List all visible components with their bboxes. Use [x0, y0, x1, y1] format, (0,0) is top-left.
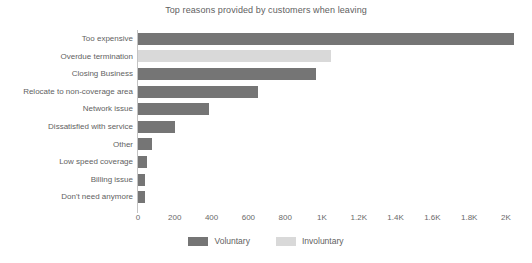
bar-row — [138, 188, 506, 206]
x-axis-labels: 02004006008001K1.2K1.4K1.6K1.8K2K — [138, 213, 506, 229]
bar-dissatisfied-with-service[interactable] — [138, 121, 175, 133]
bar-row — [138, 30, 506, 48]
bar-row — [138, 48, 506, 66]
bar-relocate-to-non-coverage-area[interactable] — [138, 86, 258, 98]
bar-billing-issue[interactable] — [138, 174, 145, 186]
bar-row — [138, 118, 506, 136]
x-axis-tick-label: 2K — [501, 213, 511, 222]
bar-chart: Top reasons provided by customers when l… — [0, 0, 532, 263]
bar-network-issue[interactable] — [138, 103, 209, 115]
y-axis-tick-label: Don't need anymore — [0, 188, 133, 206]
plot-area — [138, 30, 506, 212]
bar-overdue-termination[interactable] — [138, 50, 331, 62]
x-axis-tick-label: 200 — [168, 213, 181, 222]
legend-swatch-icon — [276, 237, 296, 246]
x-axis-tick-label: 1K — [317, 213, 327, 222]
bar-row — [138, 100, 506, 118]
legend-label: Voluntary — [214, 236, 249, 246]
y-axis-tick-label: Billing issue — [0, 171, 133, 189]
y-axis-labels: Too expensiveOverdue terminationClosing … — [0, 30, 133, 212]
x-axis-tick-label: 600 — [242, 213, 255, 222]
x-axis-tick-label: 1.4K — [387, 213, 403, 222]
chart-title: Top reasons provided by customers when l… — [0, 5, 532, 15]
bar-row — [138, 65, 506, 83]
x-axis-tick-label: 1.6K — [424, 213, 440, 222]
bar-don-t-need-anymore[interactable] — [138, 191, 145, 203]
legend-label: Involuntary — [302, 236, 344, 246]
legend-item-involuntary[interactable]: Involuntary — [276, 236, 344, 246]
y-axis-tick-label: Low speed coverage — [0, 153, 133, 171]
x-axis-tick-label: 1.2K — [351, 213, 367, 222]
bar-row — [138, 153, 506, 171]
y-axis-tick-label: Overdue termination — [0, 48, 133, 66]
x-axis-tick-label: 400 — [205, 213, 218, 222]
legend-swatch-icon — [188, 237, 208, 246]
y-axis-tick-label: Network issue — [0, 100, 133, 118]
bar-too-expensive[interactable] — [138, 33, 514, 45]
y-axis-tick-label: Relocate to non-coverage area — [0, 83, 133, 101]
y-axis-tick-label: Other — [0, 136, 133, 154]
y-axis-tick-label: Closing Business — [0, 65, 133, 83]
bar-row — [138, 171, 506, 189]
bar-row — [138, 83, 506, 101]
x-axis-tick-label: 800 — [279, 213, 292, 222]
legend-item-voluntary[interactable]: Voluntary — [188, 236, 249, 246]
y-axis-tick-label: Dissatisfied with service — [0, 118, 133, 136]
chart-legend: VoluntaryInvoluntary — [0, 236, 532, 246]
x-axis-tick-label: 1.8K — [461, 213, 477, 222]
bar-closing-business[interactable] — [138, 68, 316, 80]
bar-row — [138, 136, 506, 154]
x-axis-tick-label: 0 — [136, 213, 140, 222]
bar-low-speed-coverage[interactable] — [138, 156, 147, 168]
y-axis-tick-label: Too expensive — [0, 30, 133, 48]
bar-other[interactable] — [138, 138, 152, 150]
